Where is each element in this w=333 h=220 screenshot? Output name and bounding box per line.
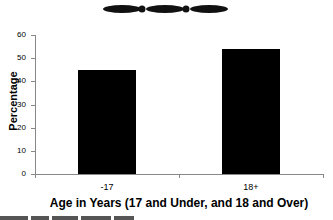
x-category-label: 18+ [211, 182, 291, 192]
decorative-divider-icon [0, 2, 333, 16]
bar-1 [78, 70, 136, 174]
x-category-label: -17 [67, 182, 147, 192]
x-tick [323, 174, 324, 178]
y-tick-label: 50 [4, 54, 26, 62]
y-tick-label: 20 [4, 124, 26, 132]
figure-caption-cropped [0, 216, 180, 220]
y-tick-label: 30 [4, 101, 26, 109]
y-tick-label: 0 [4, 170, 26, 178]
y-axis [35, 35, 36, 174]
x-axis-title: Age in Years (17 and Under, and 18 and O… [35, 196, 323, 210]
x-tick [35, 174, 36, 178]
y-tick-label: 60 [4, 31, 26, 39]
y-tick-label: 40 [4, 77, 26, 85]
y-tick-label: 10 [4, 147, 26, 155]
bar-2 [222, 49, 280, 174]
x-tick [179, 174, 180, 178]
